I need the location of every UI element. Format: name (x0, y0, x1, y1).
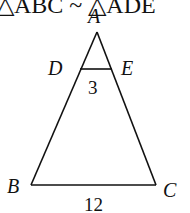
length-label-DE: 3 (88, 78, 98, 97)
side-AC (97, 32, 156, 185)
side-AB (31, 32, 97, 185)
vertex-label-A: A (88, 6, 100, 26)
triangle-diagram (0, 0, 190, 213)
length-label-BC: 12 (84, 195, 103, 213)
vertex-label-D: D (48, 58, 62, 78)
vertex-label-E: E (121, 58, 133, 78)
vertex-label-C: C (163, 180, 176, 200)
vertex-label-B: B (7, 176, 19, 196)
